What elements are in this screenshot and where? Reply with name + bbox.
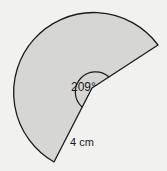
radius-label: 4 cm bbox=[70, 136, 94, 148]
angle-label: 209° bbox=[71, 80, 96, 94]
sector-diagram: 209° 4 cm bbox=[0, 0, 167, 171]
sector-figure: 209° 4 cm bbox=[0, 0, 167, 171]
